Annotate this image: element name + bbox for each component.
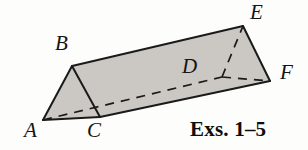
vertex-label-d: D — [182, 56, 197, 77]
vertex-label-b: B — [55, 33, 68, 54]
vertex-label-a: A — [24, 120, 37, 141]
vertex-label-f: F — [280, 62, 293, 83]
exercise-caption: Exs. 1–5 — [190, 117, 266, 142]
figure-page: A B C D E F Exs. 1–5 — [0, 0, 308, 150]
vertex-label-e: E — [250, 2, 263, 23]
vertex-label-c: C — [87, 120, 101, 141]
